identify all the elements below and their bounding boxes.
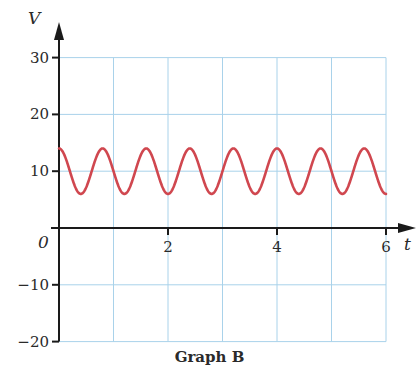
x-axis-arrow-icon: [398, 223, 416, 233]
graph-b-chart: 302010−10−20246Vt0: [0, 0, 419, 374]
grid-lines: [59, 58, 386, 342]
origin-label: 0: [38, 232, 49, 252]
y-tick-label: 30: [30, 49, 49, 67]
y-tick-label: 20: [30, 105, 49, 123]
x-tick-label: 4: [272, 238, 282, 256]
x-axis-label: t: [404, 234, 411, 254]
y-tick-label: −10: [17, 276, 49, 294]
y-axis-arrow-icon: [54, 22, 64, 40]
x-tick-label: 2: [163, 238, 173, 256]
y-axis-label: V: [28, 8, 42, 28]
chart-title: Graph B: [0, 348, 419, 366]
x-tick-label: 6: [381, 238, 391, 256]
axes: [51, 22, 416, 342]
y-tick-label: 10: [30, 162, 49, 180]
